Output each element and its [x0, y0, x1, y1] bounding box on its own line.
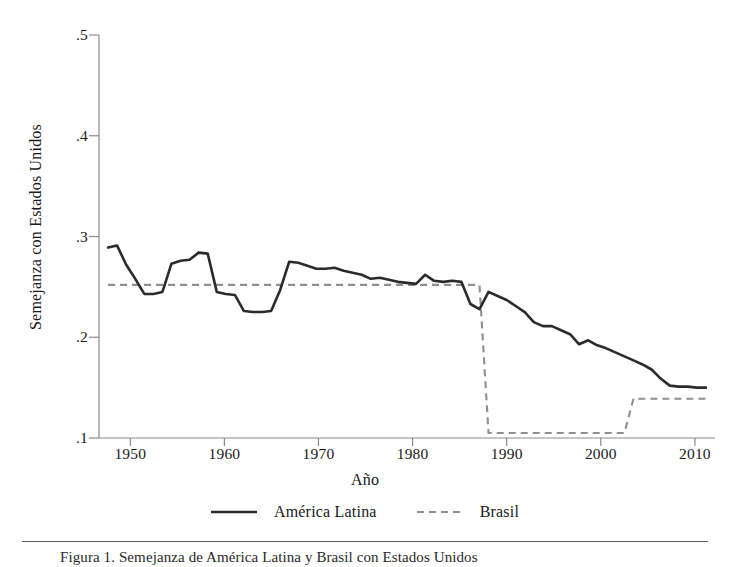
ytick-label: .3 — [48, 229, 88, 245]
legend-entry-america-latina: América Latina — [211, 503, 377, 521]
legend-label-brasil: Brasil — [480, 503, 519, 521]
ytick-label: .5 — [48, 27, 88, 43]
xtick-label: 2010 — [679, 446, 711, 462]
legend-label-america-latina: América Latina — [274, 503, 377, 521]
figure-caption: Figura 1. Semejanza de América Latina y … — [60, 548, 680, 567]
ytick-label: .1 — [48, 430, 88, 446]
xtick-label: 1960 — [208, 446, 240, 462]
xtick-label: 1950 — [114, 446, 146, 462]
footer-divider — [22, 541, 708, 542]
legend-swatch-dashed-icon — [417, 507, 463, 517]
xtick-label: 1980 — [397, 446, 429, 462]
y-axis-ticks — [89, 35, 99, 438]
y-axis-title: Semejanza con Estados Unidos — [27, 27, 45, 427]
series-line-brasil — [108, 285, 706, 433]
ytick-label: .2 — [48, 329, 88, 345]
xtick-label: 1990 — [491, 446, 523, 462]
x-axis-tick-labels: 1950 1960 1970 1980 1990 2000 2010 — [0, 446, 730, 470]
series-line-america-latina — [108, 246, 706, 388]
ytick-label: .4 — [48, 128, 88, 144]
data-series-group — [108, 246, 706, 433]
x-axis-title: Año — [0, 471, 730, 489]
legend-swatch-solid-icon — [211, 507, 257, 517]
xtick-label: 1970 — [303, 446, 335, 462]
chart-legend: América Latina Brasil — [0, 500, 730, 524]
legend-entry-brasil: Brasil — [417, 503, 519, 521]
axes-group — [89, 35, 715, 446]
xtick-label: 2000 — [585, 446, 617, 462]
